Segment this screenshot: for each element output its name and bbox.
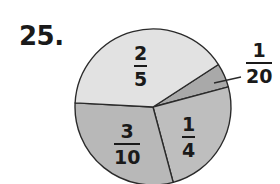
fraction-bar (246, 62, 272, 64)
denominator: 10 (114, 148, 140, 167)
label-fraction-1-20: 1 20 (246, 41, 272, 86)
pie-slices (75, 29, 231, 184)
numerator: 2 (134, 44, 147, 63)
label-fraction-3-10: 3 10 (114, 122, 140, 167)
fraction-bar (182, 136, 195, 138)
denominator: 4 (182, 141, 195, 160)
numerator: 1 (253, 41, 266, 60)
denominator: 20 (246, 67, 272, 86)
label-fraction-1-4: 1 4 (182, 115, 195, 160)
fraction-bar (114, 143, 140, 145)
denominator: 5 (134, 70, 147, 89)
fraction-bar (134, 65, 147, 67)
label-fraction-2-5: 2 5 (134, 44, 147, 89)
numerator: 3 (121, 122, 134, 141)
numerator: 1 (182, 115, 195, 134)
